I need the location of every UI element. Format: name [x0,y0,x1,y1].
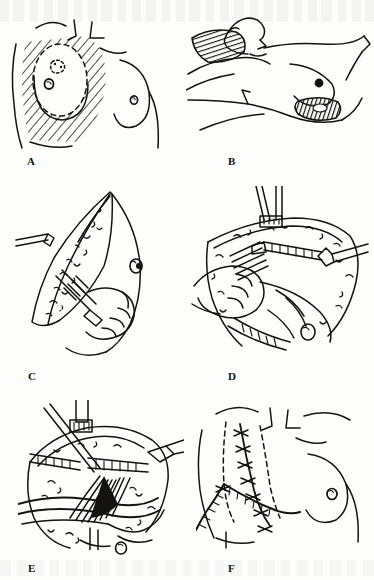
forceps [44,408,94,472]
lateral-retractor [332,244,368,254]
scalpel-blade [84,310,102,326]
panel-e-nodule [112,540,130,556]
suture-stitches [234,430,272,532]
fat-stippling [212,226,353,324]
flap-clamps [256,186,282,227]
panel-label-d: D [228,370,236,382]
nipple [315,79,324,88]
surgeon-hand [194,266,264,310]
panel-d [190,186,370,364]
panel-label-a: A [27,155,35,167]
nipple [301,324,315,340]
panel-a [8,14,188,154]
panel-label-e: E [28,562,36,574]
panel-e [18,400,184,550]
panel-label-b: B [228,155,236,167]
fat-stippling [42,442,155,543]
panel-c [14,188,184,366]
panel-b [186,8,372,153]
panel-label-c: C [28,370,36,382]
flap-margin-medial [223,422,234,522]
panel-f [196,398,372,550]
illustration-plate: A [0,0,374,580]
panel-label-f: F [228,562,235,574]
page-bleedthrough-bottom [0,560,374,576]
